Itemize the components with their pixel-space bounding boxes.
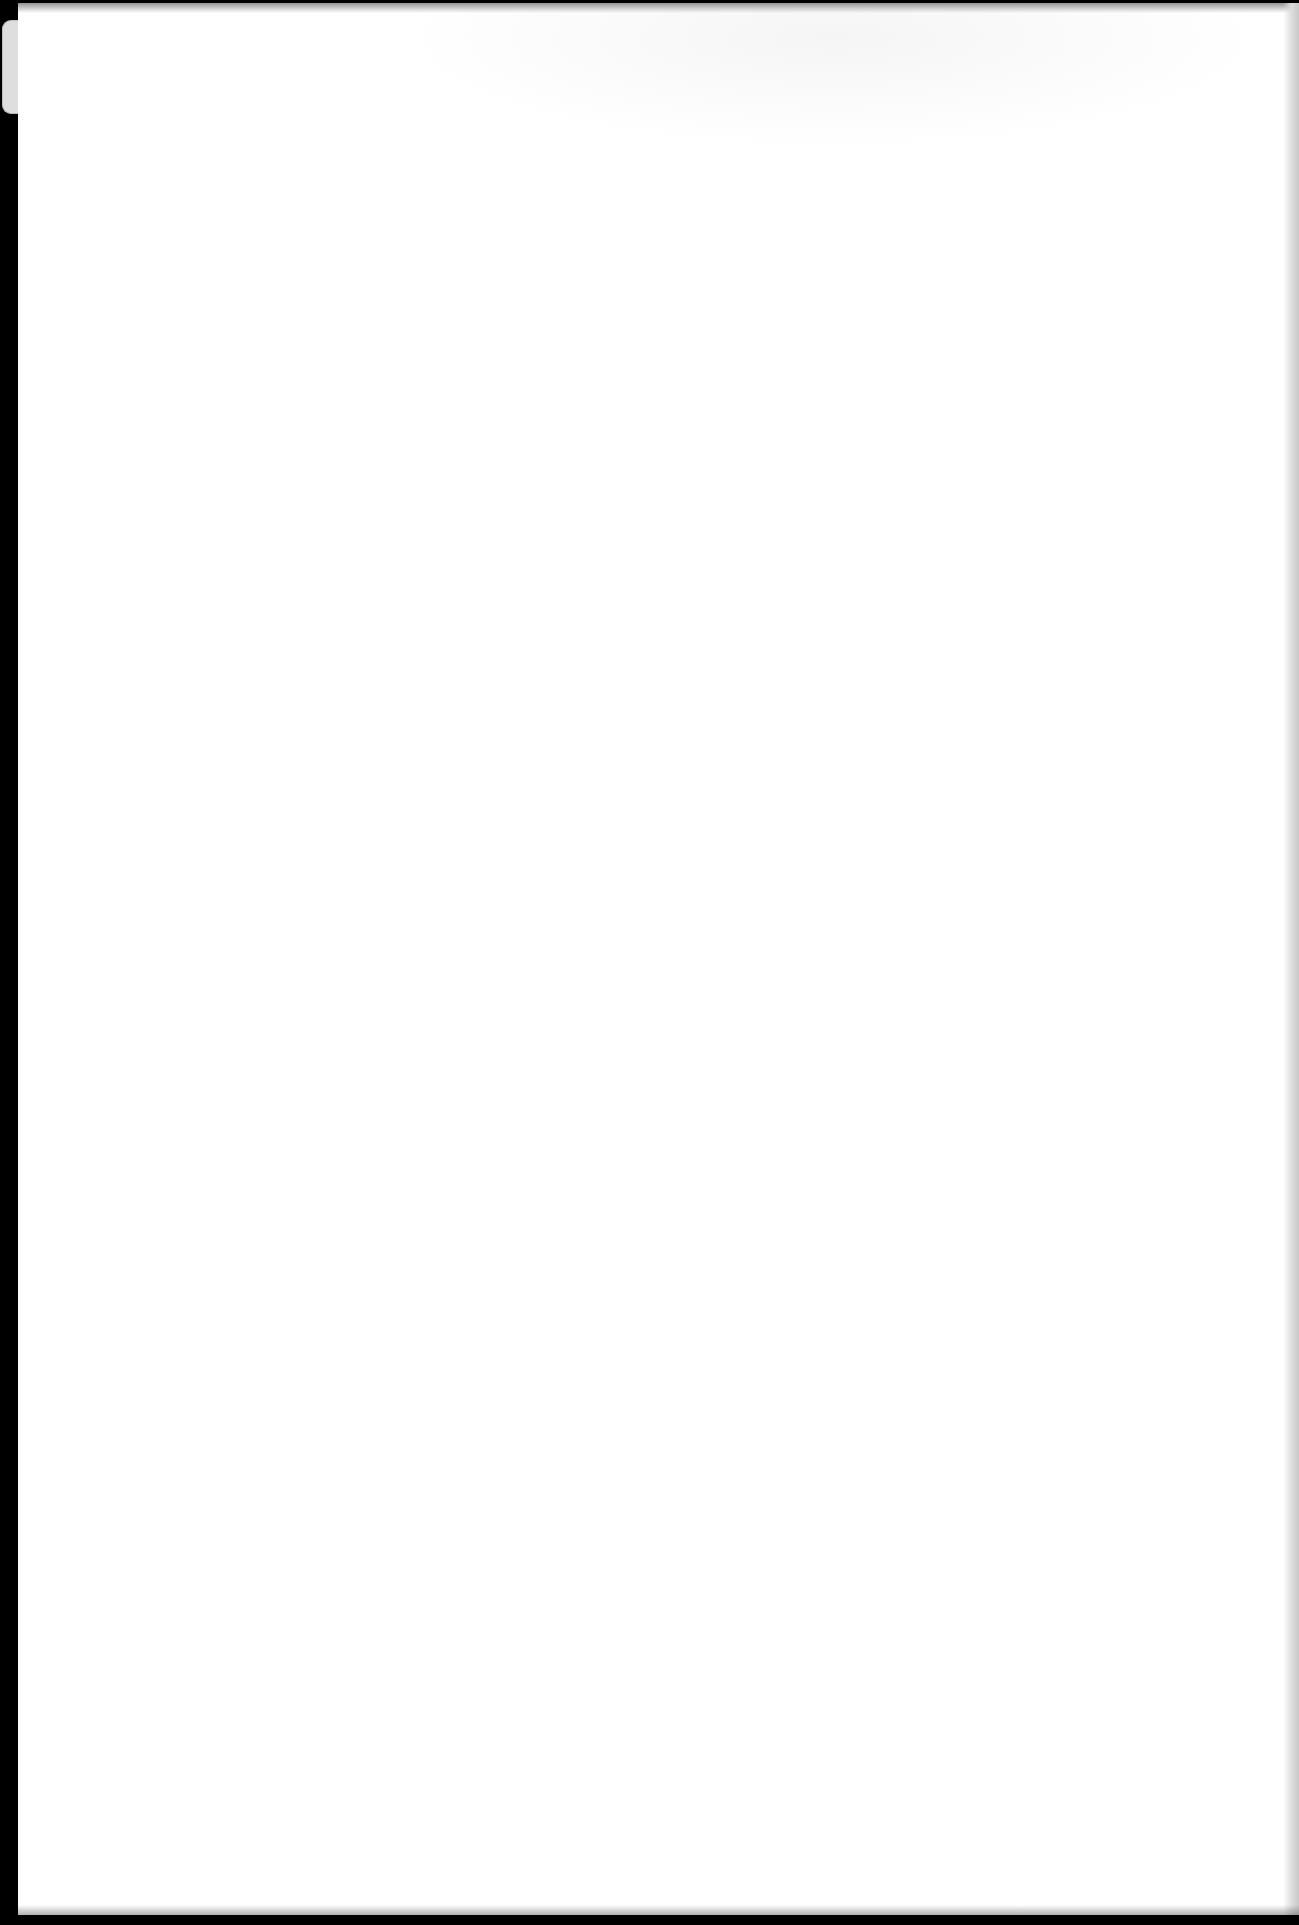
scanner-background [0, 0, 1299, 1925]
blank-page [18, 3, 1299, 1915]
right-edge-shadow [1283, 3, 1299, 1915]
bottom-edge-shadow [18, 1905, 1299, 1915]
page-content-area [98, 123, 1219, 1795]
